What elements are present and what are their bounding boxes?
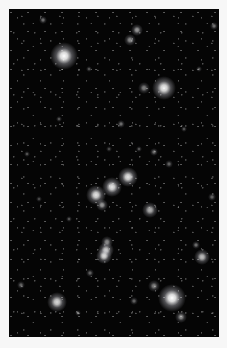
star [194, 249, 210, 265]
star [210, 22, 218, 30]
star [148, 280, 160, 292]
star [150, 148, 158, 156]
star [158, 284, 186, 312]
star [124, 34, 136, 46]
star [142, 202, 158, 218]
star-field-image [9, 9, 219, 337]
star [101, 236, 113, 248]
star [17, 281, 25, 289]
star [24, 151, 30, 157]
star [208, 193, 216, 201]
star [192, 241, 200, 249]
star [96, 199, 108, 211]
star [181, 126, 187, 132]
star [196, 66, 202, 72]
star [165, 160, 173, 168]
star [86, 66, 92, 72]
star [175, 311, 187, 323]
star [39, 16, 47, 24]
star [47, 292, 67, 312]
star [136, 146, 142, 152]
star [36, 196, 42, 202]
star [96, 248, 112, 264]
star [106, 146, 112, 152]
star [152, 76, 176, 100]
star [138, 82, 150, 94]
star [130, 297, 138, 305]
star [86, 269, 94, 277]
star [56, 116, 62, 122]
star [66, 216, 72, 222]
background-noise [9, 9, 219, 337]
star [75, 310, 81, 316]
star [50, 42, 78, 70]
star [117, 120, 125, 128]
